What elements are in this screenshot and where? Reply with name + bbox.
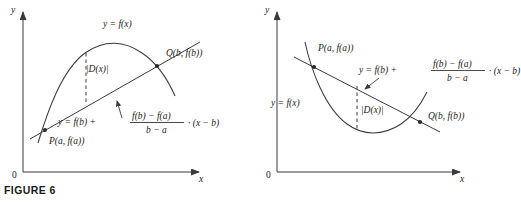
secant-leader-arrow-left bbox=[117, 101, 122, 118]
origin-label-right: 0 bbox=[266, 170, 271, 180]
y-axis-label-right: y bbox=[264, 5, 270, 15]
secant-equation-numerator-left: f(b) − f(a) bbox=[132, 111, 171, 122]
secant-equation-denominator-left: b − a bbox=[146, 125, 167, 135]
figure-panel-right: x y 0 P(a, f(a)) y = f(x) |D(x)| Q(b, f(… bbox=[255, 0, 521, 180]
point-q-label-right: Q(b, f(b)) bbox=[428, 111, 464, 122]
secant-leader-arrow-right bbox=[365, 78, 379, 89]
secant-equation-prefix-left: y = f(b) + bbox=[57, 117, 96, 128]
secant-equation-numerator-right: f(b) − f(a) bbox=[433, 59, 472, 70]
distance-label-right: |D(x)| bbox=[361, 105, 384, 116]
x-axis-label-right: x bbox=[459, 174, 465, 184]
figure-panel-left: x y 0 y = f(x) |D(x)| P(a, f(a)) Q(b, f(… bbox=[0, 0, 255, 180]
curve-label-right: y = f(x) bbox=[270, 98, 300, 109]
secant-equation-suffix-left: · (x − b) bbox=[188, 118, 219, 129]
curve-label-left: y = f(x) bbox=[102, 19, 132, 30]
point-p-label-right: P(a, f(a)) bbox=[317, 43, 353, 54]
figure-6-container: x y 0 y = f(x) |D(x)| P(a, f(a)) Q(b, f(… bbox=[0, 0, 521, 204]
origin-label-left: 0 bbox=[12, 170, 17, 180]
point-p-marker-left bbox=[43, 128, 47, 132]
secant-equation-prefix-right: y = f(b) + bbox=[358, 65, 397, 76]
point-q-marker-left bbox=[155, 64, 159, 68]
curve-f-right bbox=[305, 42, 427, 133]
distance-label-left: |D(x)| bbox=[86, 64, 109, 75]
point-p-label-left: P(a, f(a)) bbox=[48, 136, 84, 147]
point-p-marker-right bbox=[312, 65, 316, 69]
figure-caption: FIGURE 6 bbox=[4, 184, 56, 196]
point-q-marker-right bbox=[418, 120, 422, 124]
secant-equation-suffix-right: · (x − b) bbox=[489, 66, 520, 77]
point-q-label-left: Q(b, f(b)) bbox=[166, 48, 202, 59]
y-axis-label-left: y bbox=[10, 5, 16, 15]
secant-equation-denominator-right: b − a bbox=[447, 73, 468, 83]
right-panel-graphic: x y 0 P(a, f(a)) y = f(x) |D(x)| Q(b, f(… bbox=[255, 0, 521, 180]
left-panel-graphic: x y 0 y = f(x) |D(x)| P(a, f(a)) Q(b, f(… bbox=[0, 0, 255, 180]
x-axis-label-left: x bbox=[198, 174, 204, 184]
